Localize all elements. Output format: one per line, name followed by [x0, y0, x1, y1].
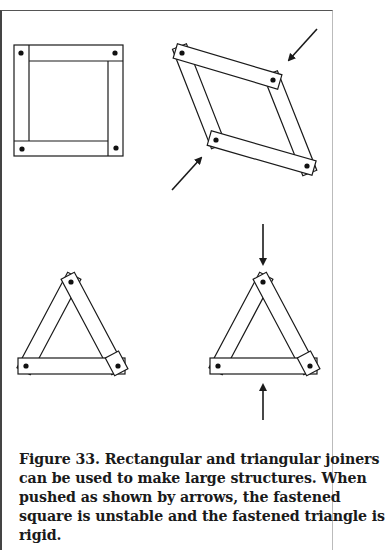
square-joiner [14, 45, 123, 156]
caption-line: rigid. [19, 526, 331, 545]
figure-caption: Figure 33. Rectangular and triangular jo… [19, 450, 331, 545]
triangle-joiner-pushed [209, 224, 320, 420]
caption-line: square is unstable and the fastened tria… [19, 507, 331, 526]
triangle-joiner [17, 272, 128, 375]
caption-line: Figure 33. Rectangular and triangular jo… [19, 450, 331, 469]
figure-illustration [0, 0, 336, 440]
rhombus-joiner [172, 29, 317, 190]
caption-line: pushed as shown by arrows, the fastened [19, 488, 331, 507]
caption-line: can be used to make large structures. Wh… [19, 469, 331, 488]
